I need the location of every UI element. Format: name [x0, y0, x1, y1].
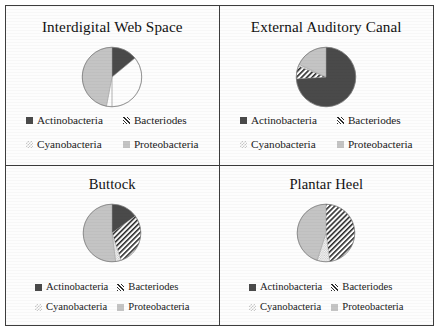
actinobacteria-swatch-icon — [249, 284, 256, 291]
pie-chart-container — [220, 203, 434, 263]
legend-item-proteobacteria: Proteobacteria — [123, 139, 199, 150]
cyanobacteria-swatch-icon — [26, 141, 33, 148]
panel-grid: Interdigital Web Space Actinobacteria Ba… — [6, 6, 433, 325]
pie-chart — [81, 46, 143, 108]
legend-item-cyanobacteria: Cyanobacteria — [35, 302, 108, 313]
legend: Actinobacteria Bacteriodes Cyanobacteria… — [220, 282, 434, 313]
pie-chart-container — [6, 46, 219, 108]
pie-slice-bacteriodes — [326, 204, 355, 261]
legend-item-cyanobacteria: Cyanobacteria — [26, 139, 103, 150]
legend-label: Actinobacteria — [37, 115, 103, 126]
panel-external-auditory-canal: External Auditory Canal Actinobacteria B… — [220, 6, 434, 166]
legend-label: Proteobacteria — [128, 302, 189, 313]
bacteriodes-swatch-icon — [117, 284, 124, 291]
panel-plantar-heel: Plantar Heel Actinobacteria Bacteriodes … — [220, 166, 434, 326]
pie-slice-proteobacteria — [82, 47, 112, 106]
panel-interdigital-web-space: Interdigital Web Space Actinobacteria Ba… — [6, 6, 220, 166]
pie-chart — [296, 203, 356, 263]
legend-item-bacteriodes: Bacteriodes — [331, 282, 403, 293]
actinobacteria-swatch-icon — [35, 284, 42, 291]
legend-label: Cyanobacteria — [46, 302, 107, 313]
legend-label: Bacteriodes — [342, 282, 392, 293]
legend-item-cyanobacteria: Cyanobacteria — [240, 139, 317, 150]
panel-title: Interdigital Web Space — [6, 18, 219, 36]
panel-title: External Auditory Canal — [220, 18, 434, 36]
cyanobacteria-swatch-icon — [249, 304, 256, 311]
panel-buttock: Buttock Actinobacteria Bacteriodes Cyano… — [6, 166, 220, 326]
legend-label: Actinobacteria — [260, 282, 322, 293]
figure-panel-grid: Interdigital Web Space Actinobacteria Ba… — [5, 5, 434, 326]
pie-chart — [295, 46, 357, 108]
cyanobacteria-swatch-icon — [240, 141, 247, 148]
legend-item-proteobacteria: Proteobacteria — [331, 302, 403, 313]
panel-title: Buttock — [6, 176, 219, 193]
bacteriodes-swatch-icon — [337, 117, 344, 124]
actinobacteria-swatch-icon — [240, 117, 247, 124]
bacteriodes-swatch-icon — [331, 284, 338, 291]
legend-item-cyanobacteria: Cyanobacteria — [249, 302, 322, 313]
legend-label: Actinobacteria — [46, 282, 108, 293]
legend-label: Bacteriodes — [134, 115, 187, 126]
legend-label: Bacteriodes — [348, 115, 401, 126]
pie-chart-container — [6, 203, 219, 263]
pie-slice-proteobacteria — [83, 204, 115, 262]
pie-chart — [82, 203, 142, 263]
bacteriodes-swatch-icon — [123, 117, 130, 124]
legend-item-proteobacteria: Proteobacteria — [337, 139, 413, 150]
legend-label: Bacteriodes — [128, 282, 178, 293]
proteobacteria-swatch-icon — [117, 304, 124, 311]
proteobacteria-swatch-icon — [337, 141, 344, 148]
panel-title: Plantar Heel — [220, 176, 434, 193]
legend-label: Cyanobacteria — [251, 139, 316, 150]
legend-label: Proteobacteria — [134, 139, 199, 150]
pie-chart-container — [220, 46, 434, 108]
legend-item-actinobacteria: Actinobacteria — [249, 282, 322, 293]
legend-label: Proteobacteria — [342, 302, 403, 313]
legend-item-actinobacteria: Actinobacteria — [26, 115, 103, 126]
actinobacteria-swatch-icon — [26, 117, 33, 124]
legend-item-actinobacteria: Actinobacteria — [35, 282, 108, 293]
legend-item-bacteriodes: Bacteriodes — [123, 115, 199, 126]
legend: Actinobacteria Bacteriodes Cyanobacteria… — [6, 115, 219, 150]
legend: Actinobacteria Bacteriodes Cyanobacteria… — [220, 115, 434, 150]
legend: Actinobacteria Bacteriodes Cyanobacteria… — [6, 282, 219, 313]
cyanobacteria-swatch-icon — [35, 304, 42, 311]
proteobacteria-swatch-icon — [123, 141, 130, 148]
legend-item-actinobacteria: Actinobacteria — [240, 115, 317, 126]
proteobacteria-swatch-icon — [331, 304, 338, 311]
legend-item-proteobacteria: Proteobacteria — [117, 302, 189, 313]
legend-item-bacteriodes: Bacteriodes — [117, 282, 189, 293]
pie-slice-actinobacteria — [112, 47, 135, 77]
legend-label: Cyanobacteria — [37, 139, 102, 150]
legend-label: Actinobacteria — [251, 115, 317, 126]
legend-label: Cyanobacteria — [260, 302, 321, 313]
legend-item-bacteriodes: Bacteriodes — [337, 115, 413, 126]
legend-label: Proteobacteria — [348, 139, 413, 150]
